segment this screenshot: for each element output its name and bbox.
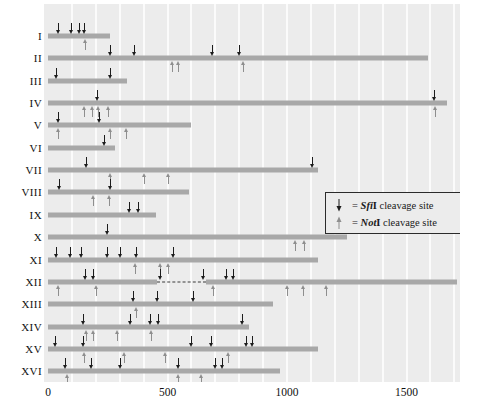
chromosome-bar-XII [48,279,157,284]
chromosome-label-XIII: XIII [2,298,42,310]
not-cleavage-site-XIV [86,330,87,341]
not-cleavage-site-XVI [178,374,179,382]
legend-eq-not: = [352,217,358,228]
not-cleavage-site-II [243,61,244,72]
plot-area: = SfiI cleavage site = NotI cleavage sit… [44,4,460,382]
not-cleavage-site-XV [84,352,85,363]
chromosome-label-XV: XV [2,343,42,355]
sfi-cleavage-site-XV [83,336,84,347]
not-cleavage-site-II [172,61,173,72]
chromosome-label-IX: IX [2,209,42,221]
not-cleavage-site-XV [124,352,125,363]
sfi-cleavage-site-XI [120,247,121,258]
not-cleavage-site-XIV [117,330,118,341]
not-cleavage-site-XII [303,285,304,296]
sfi-cleavage-site-XI [70,247,71,258]
sfi-cleavage-site-VIII [59,179,60,190]
sfi-cleavage-site-XV [252,336,253,347]
chromosome-label-I: I [2,30,42,42]
not-cleavage-site-XII [287,285,288,296]
sfi-cleavage-site-IX [129,202,130,213]
chromosome-bar-I [48,34,110,39]
sfi-cleavage-site-VII [312,157,313,168]
sfi-cleavage-site-VI [104,135,105,146]
not-cleavage-site-VII [144,173,145,184]
x-axis: 050010001500 kb [44,382,460,406]
sfi-cleavage-site-XIV [242,314,243,325]
sfi-cleavage-site-XIII [133,291,134,302]
chromosome-cleavage-map-figure: IIIIIIIVVVIVIIVIIIIXXXIXIIXIIIXIVXVXVI =… [0,0,482,420]
chromosome-gap-XII [157,281,206,282]
legend-item-not: = NotI cleavage site [334,214,460,231]
legend-eq-sfi: = [352,200,358,211]
not-cleavage-site-IV [84,106,85,117]
sfi-cleavage-site-III [110,68,111,79]
sfi-cleavage-site-XV [191,336,192,347]
sfi-cleavage-site-XII [85,269,86,280]
sfi-cleavage-site-XIV [130,314,131,325]
sfi-cleavage-site-XVI [65,358,66,369]
not-cleavage-site-V [58,128,59,139]
chromosome-label-IV: IV [2,97,42,109]
sfi-cleavage-site-VIII [110,179,111,190]
chromosome-bar-IX [48,212,156,217]
chromosome-label-XI: XI [2,254,42,266]
sfi-cleavage-site-XV [55,336,56,347]
not-cleavage-site-II [178,61,179,72]
sfi-arrow-icon [336,199,342,212]
legend-item-sfi: = SfiI cleavage site [334,197,460,214]
chromosome-bar-VI [48,145,115,150]
not-cleavage-site-XI [168,263,169,274]
sfi-cleavage-site-XVI [91,358,92,369]
chromosome-label-XVI: XVI [2,365,42,377]
chromosome-bar-II [48,56,428,61]
not-cleavage-site-XII [213,285,214,296]
not-cleavage-site-XII [96,285,97,296]
sfi-cleavage-site-X [107,224,108,235]
sfi-cleavage-site-XIII [193,291,194,302]
sfi-cleavage-site-II [134,45,135,56]
not-cleavage-site-I [85,39,86,50]
x-tick-0: 0 [45,386,51,398]
not-cleavage-site-VIII [93,195,94,206]
sfi-cleavage-site-II [212,45,213,56]
not-cleavage-site-XII [58,285,59,296]
sfi-cleavage-site-XI [173,247,174,258]
sfi-cleavage-site-I [58,23,59,34]
sfi-cleavage-site-XII [160,269,161,280]
chromosome-label-III: III [2,75,42,87]
sfi-cleavage-site-VII [86,157,87,168]
chromosome-label-V: V [2,119,42,131]
not-cleavage-site-XV [228,352,229,363]
legend-suffix-sfi: cleavage site [380,200,434,211]
sfi-cleavage-site-III [56,68,57,79]
chromosome-label-VI: VI [2,142,42,154]
legend-enzyme-num-sfi: I [373,200,377,211]
legend-enzyme-num-not: I [376,217,380,228]
legend-enzyme-not: Not [361,217,377,228]
sfi-cleavage-site-I [84,23,85,34]
chromosome-bar-IV [48,101,447,106]
chromosome-label-column: IIIIIIIVVVIVIIVIIIIXXXIXIIXIIIXIVXVXVI [0,0,42,382]
chromosome-bar-VII [48,168,318,173]
sfi-cleavage-site-XI [136,247,137,258]
not-cleavage-site-XIV [151,330,152,341]
chromosome-label-XII: XII [2,276,42,288]
not-cleavage-site-XVI [201,374,202,382]
sfi-cleavage-site-XIV [150,314,151,325]
chromosome-label-XIV: XIV [2,321,42,333]
legend-label-not: = NotI cleavage site [352,214,437,231]
sfi-cleavage-site-I [79,23,80,34]
sfi-cleavage-site-XII [226,269,227,280]
not-cleavage-site-IV [92,106,93,117]
sfi-cleavage-site-XV [246,336,247,347]
chromosome-bar-XVI [48,369,280,374]
sfi-cleavage-site-XIV [158,314,159,325]
sfi-cleavage-site-XV [211,336,212,347]
chromosome-bar-XII-b [206,279,457,284]
chromosome-bar-XIII [48,302,273,307]
chromosome-label-VIII: VIII [2,186,42,198]
sfi-cleavage-site-I [71,23,72,34]
sfi-cleavage-site-XI [56,247,57,258]
sfi-cleavage-site-XVI [222,358,223,369]
